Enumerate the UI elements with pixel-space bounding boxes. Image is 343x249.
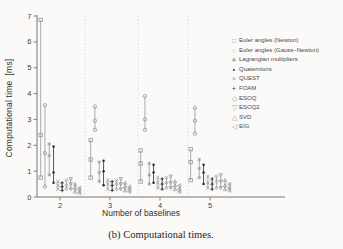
plus-marker-icon: + — [230, 84, 238, 94]
triangle-down-marker-icon: ▽ — [230, 103, 238, 113]
computational-times-figure: 012345672345 Computational time [ms] Num… — [0, 0, 343, 249]
y-tick-label: 7 — [27, 12, 31, 21]
x-axis-label: Number of baselines — [66, 208, 216, 218]
asterisk-marker-icon: ∗ — [230, 55, 238, 65]
y-tick-label: 2 — [27, 141, 31, 150]
series-square — [39, 18, 192, 183]
legend-label: ESOQ2 — [238, 103, 260, 113]
legend-label: FOAM — [238, 84, 256, 94]
legend: □Euler angles (Newton)○Euler angles (Gau… — [230, 36, 342, 132]
y-tick-label: 4 — [27, 89, 31, 98]
series-diamond — [65, 175, 218, 191]
legend-label: SVD — [238, 113, 251, 123]
legend-label: Euler angles (Gauss–Newton) — [238, 46, 319, 56]
legend-item: ∗Lagrangian multipliers — [230, 55, 342, 65]
legend-label: EIG — [238, 122, 249, 132]
triangle-up-marker-icon: △ — [230, 113, 238, 123]
figure-caption: (b) Computational times. — [11, 229, 311, 240]
legend-item: •Quaternions — [230, 65, 342, 75]
legend-label: Quaternions — [238, 65, 272, 75]
y-tick-label: 0 — [27, 193, 31, 202]
series-circle — [43, 94, 196, 188]
y-tick-label: 6 — [27, 37, 31, 46]
point-marker-icon: • — [230, 65, 238, 75]
triangle-left-marker-icon: ◁ — [230, 122, 238, 132]
legend-item: ○Euler angles (Gauss–Newton) — [230, 46, 342, 56]
y-axis-label: Computational time [ms] — [4, 33, 18, 183]
diamond-marker-icon: ◇ — [230, 94, 238, 104]
legend-item: ◇ESOQ — [230, 94, 342, 104]
x-marker-icon: × — [230, 74, 238, 84]
legend-item: +FOAM — [230, 84, 342, 94]
circle-marker-icon: ○ — [230, 46, 238, 56]
legend-item: ▽ESOQ2 — [230, 103, 342, 113]
series-point — [52, 145, 205, 186]
legend-label: QUEST — [238, 74, 260, 84]
square-marker-icon: □ — [230, 36, 238, 46]
legend-item: △SVD — [230, 113, 342, 123]
y-tick-label: 1 — [27, 167, 31, 176]
y-tick-label: 5 — [27, 63, 31, 72]
legend-label: Lagrangian multipliers — [238, 55, 298, 65]
legend-label: ESOQ — [238, 94, 256, 104]
x-tick-label: 2 — [58, 201, 62, 210]
legend-item: ◁EIG — [230, 122, 342, 132]
legend-label: Euler angles (Newton) — [238, 36, 298, 46]
y-tick-label: 3 — [27, 115, 31, 124]
legend-item: ×QUEST — [230, 74, 342, 84]
legend-item: □Euler angles (Newton) — [230, 36, 342, 46]
